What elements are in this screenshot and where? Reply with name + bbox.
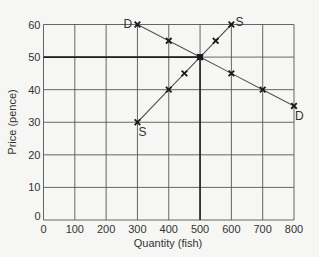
demand-line bbox=[137, 25, 294, 106]
y-tick-label: 50 bbox=[28, 51, 40, 63]
y-tick-label: 20 bbox=[28, 149, 40, 161]
x-tick-label: 100 bbox=[66, 223, 84, 235]
x-tick-label: 700 bbox=[254, 223, 272, 235]
x-axis-label: Quantity (fish) bbox=[134, 237, 202, 249]
y-tick-label: 0 bbox=[34, 210, 40, 222]
equilibrium-point bbox=[197, 54, 203, 60]
x-tick-label: 500 bbox=[191, 223, 209, 235]
x-tick-label: 800 bbox=[285, 223, 303, 235]
data-markers bbox=[135, 22, 297, 125]
y-tick-label: 60 bbox=[28, 19, 40, 31]
x-tick-label: 600 bbox=[222, 223, 240, 235]
demand-start-label: D bbox=[123, 17, 132, 31]
x-tick-label: 300 bbox=[128, 223, 146, 235]
series-lines bbox=[137, 25, 294, 123]
x-marker-icon bbox=[182, 71, 188, 77]
y-tick-label: 10 bbox=[28, 181, 40, 193]
demand-end-label: D bbox=[295, 109, 304, 123]
x-tick-label: 400 bbox=[160, 223, 178, 235]
y-tick-label: 30 bbox=[28, 116, 40, 128]
tick-labels: 01002003004005006007008000102030405060 bbox=[28, 19, 303, 236]
supply-end-label: S bbox=[235, 15, 243, 29]
x-marker-icon bbox=[213, 38, 219, 44]
y-axis-label: Price (pence) bbox=[6, 89, 18, 154]
series-labels: DDSS bbox=[123, 15, 304, 140]
x-tick-label: 0 bbox=[40, 223, 46, 235]
grid bbox=[44, 25, 295, 221]
supply-start-label: S bbox=[138, 125, 146, 139]
x-tick-label: 200 bbox=[97, 223, 115, 235]
supply-demand-chart: 01002003004005006007008000102030405060 D… bbox=[0, 0, 319, 257]
y-tick-label: 40 bbox=[28, 84, 40, 96]
